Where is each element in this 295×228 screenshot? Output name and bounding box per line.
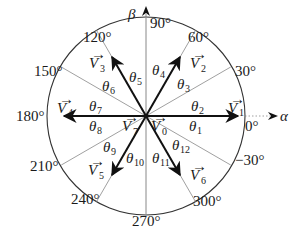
angle-minus30: −30° [235,152,264,168]
angle-labels: 90° 60° 30° 0° −30° 300° 270° 240° 210° … [16,15,264,228]
svg-text:6: 6 [201,175,206,186]
svg-text:2: 2 [199,105,204,116]
label-theta5: θ5 [129,69,142,87]
svg-text:θ: θ [129,69,137,85]
label-theta1: θ1 [189,118,202,136]
svg-text:8: 8 [97,125,102,136]
origin-dot [144,114,148,118]
angle-300: 300° [193,193,222,209]
angle-120: 120° [83,29,112,45]
svg-text:θ: θ [152,62,160,78]
svg-text:θ: θ [189,118,197,134]
svg-text:θ: θ [103,139,111,155]
svg-text:1: 1 [197,125,202,136]
angle-210: 210° [30,158,59,174]
angle-180: 180° [16,108,45,124]
svg-text:2: 2 [201,63,206,74]
svg-text:5: 5 [137,76,142,87]
angle-270: 270° [132,213,161,228]
svg-text:5: 5 [99,170,104,181]
label-theta3: θ3 [177,76,190,94]
label-v5: V5→ [88,153,105,181]
svg-text:θ: θ [126,150,134,166]
label-theta8: θ8 [89,118,102,136]
label-theta6: θ6 [102,78,115,96]
svg-text:θ: θ [177,76,185,92]
svg-text:4: 4 [160,69,165,80]
label-theta2: θ2 [191,98,204,116]
label-theta7: θ7 [89,98,102,116]
svg-text:θ: θ [89,98,97,114]
svg-text:12: 12 [180,144,190,155]
svg-text:7: 7 [97,105,102,116]
label-v2: V2→ [190,46,207,74]
svg-text:→: → [192,158,207,174]
angle-30: 30° [235,63,256,79]
svg-text:→: → [59,91,74,107]
svg-text:θ: θ [152,150,160,166]
svg-text:6: 6 [110,85,115,96]
label-v1: V1→ [228,91,245,118]
angle-150: 150° [34,63,63,79]
svg-text:7: 7 [133,126,138,137]
angle-240: 240° [71,191,100,207]
label-theta10: θ10 [126,150,144,168]
svg-text:10: 10 [134,157,144,168]
angle-90: 90° [150,15,171,31]
svg-text:θ: θ [191,98,199,114]
svg-text:→: → [91,46,106,62]
angle-0: 0° [245,118,259,134]
svg-text:3: 3 [100,63,105,74]
svg-text:→: → [153,109,168,125]
svg-text:θ: θ [102,78,110,94]
svg-text:→: → [90,153,105,169]
svg-text:0: 0 [162,126,167,137]
label-theta4: θ4 [152,62,165,80]
alpha-label: α [280,108,289,124]
label-v7: V7→ [122,109,139,137]
label-v3: V3→ [89,46,106,74]
label-v6: V6→ [190,158,207,186]
svg-text:→: → [192,46,207,62]
svg-text:→: → [230,91,245,107]
svg-text:4: 4 [68,107,73,118]
svg-text:θ: θ [172,137,180,153]
svg-text:9: 9 [111,146,116,157]
space-vector-diagram: β α 90° 60° 30° 0° −30° 300° 270° 240° 2… [0,0,295,228]
svg-text:θ: θ [89,118,97,134]
label-v0: V0→ [151,109,168,137]
svg-text:11: 11 [160,157,170,168]
svg-text:3: 3 [185,83,190,94]
angle-60: 60° [188,29,209,45]
svg-text:→: → [124,109,139,125]
svg-text:1: 1 [239,107,244,118]
label-v4: V4→ [57,91,74,118]
label-theta9: θ9 [103,139,116,157]
beta-label: β [127,6,136,22]
